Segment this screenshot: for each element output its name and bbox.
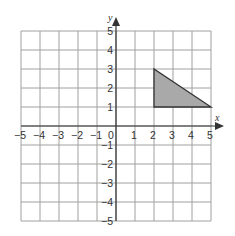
y-axis-label: y xyxy=(107,12,113,23)
y-tick-label: 5 xyxy=(107,25,113,37)
x-tick-label: 4 xyxy=(188,129,194,141)
x-tick-label: 1 xyxy=(131,129,137,141)
y-tick-label: 1 xyxy=(107,101,113,113)
coordinate-plane: −5−4−3−2−1012345 54321−1−2−3−4−5 x y xyxy=(0,0,235,236)
x-tick-label: 3 xyxy=(169,129,175,141)
y-tick-label: −5 xyxy=(101,215,113,227)
x-tick-labels: −5−4−3−2−1012345 xyxy=(14,129,213,141)
x-axis-label: x xyxy=(214,112,220,123)
x-tick-label: −4 xyxy=(33,129,45,141)
y-tick-label: 3 xyxy=(107,63,113,75)
y-tick-label: −1 xyxy=(101,139,113,151)
x-tick-label: −3 xyxy=(52,129,64,141)
x-tick-label: 5 xyxy=(207,129,213,141)
x-axis-arrow-icon xyxy=(215,122,224,130)
axes xyxy=(21,17,224,221)
x-tick-label: 2 xyxy=(150,129,156,141)
y-tick-label: 2 xyxy=(107,82,113,94)
y-tick-label: −3 xyxy=(101,177,113,189)
x-tick-label: −2 xyxy=(71,129,83,141)
y-axis-arrow-icon xyxy=(112,17,120,26)
y-tick-label: −4 xyxy=(101,196,113,208)
x-tick-label: −5 xyxy=(14,129,26,141)
y-tick-label: −2 xyxy=(101,158,113,170)
y-tick-label: 4 xyxy=(107,44,113,56)
